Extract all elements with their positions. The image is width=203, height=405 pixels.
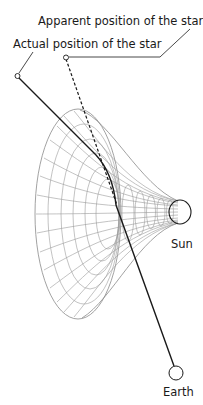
actual-star-marker <box>15 74 20 79</box>
earth-circle <box>169 366 183 380</box>
actual-star-label: Actual position of the star <box>13 37 162 51</box>
actual-leader-line <box>19 52 33 73</box>
earth: Earth <box>163 366 194 399</box>
apparent-star-marker <box>64 55 69 60</box>
lensing-diagram: Sun Apparent position of the star Actual… <box>0 0 203 405</box>
apparent-star-label: Apparent position of the star <box>38 14 203 28</box>
earth-label: Earth <box>163 385 194 399</box>
spacetime-funnel <box>35 109 178 319</box>
sun-label: Sun <box>171 237 193 251</box>
